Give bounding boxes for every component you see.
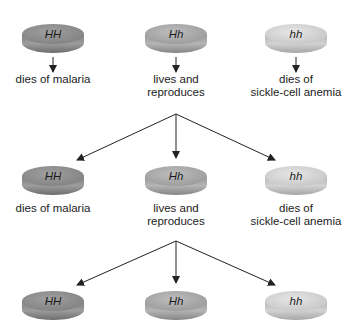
generation-row-3: HHHhhh [22, 291, 327, 320]
genotype-label: hh [290, 295, 303, 307]
genotype-label: HH [45, 28, 62, 40]
outcome-label: reproduces [147, 86, 205, 98]
genotype-label: hh [290, 28, 303, 40]
individual-hh: hhdies ofsickle-cell anemia [251, 24, 342, 98]
outcome-label: dies of malaria [16, 73, 91, 85]
outcome-label: sickle-cell anemia [251, 86, 342, 98]
outcome-label: sickle-cell anemia [251, 215, 342, 227]
individual-hh: HHdies of malaria [16, 24, 91, 85]
arrows-layer [77, 114, 275, 285]
outcome-label: dies of [279, 202, 314, 214]
inheritance-arrow [77, 241, 176, 285]
inheritance-arrow [176, 241, 275, 285]
outcome-label: dies of malaria [16, 202, 91, 214]
generation-row-2: HHdies of malariaHhlives andreproduceshh… [16, 166, 342, 227]
rows-layer: HHdies of malariaHhlives andreproduceshh… [16, 24, 342, 320]
individual-hh: HH [22, 291, 84, 320]
inheritance-arrow [176, 114, 275, 160]
genotype-label: Hh [169, 295, 184, 307]
outcome-label: lives and [153, 73, 198, 85]
individual-hh: Hhlives andreproduces [145, 24, 207, 98]
genotype-label: Hh [169, 170, 184, 182]
individual-hh: hhdies ofsickle-cell anemia [251, 166, 342, 227]
outcome-label: lives and [153, 202, 198, 214]
genotype-label: hh [290, 170, 303, 182]
individual-hh: Hh [145, 291, 207, 320]
individual-hh: Hhlives andreproduces [145, 166, 207, 227]
outcome-label: reproduces [147, 215, 205, 227]
genotype-label: HH [45, 170, 62, 182]
genotype-label: Hh [169, 28, 184, 40]
individual-hh: hh [265, 291, 327, 320]
individual-hh: HHdies of malaria [16, 166, 91, 214]
sickle-cell-selection-diagram: HHdies of malariaHhlives andreproduceshh… [0, 0, 351, 334]
genotype-label: HH [45, 295, 62, 307]
outcome-label: dies of [279, 73, 314, 85]
generation-row-1: HHdies of malariaHhlives andreproduceshh… [16, 24, 342, 98]
inheritance-arrow [77, 114, 176, 160]
